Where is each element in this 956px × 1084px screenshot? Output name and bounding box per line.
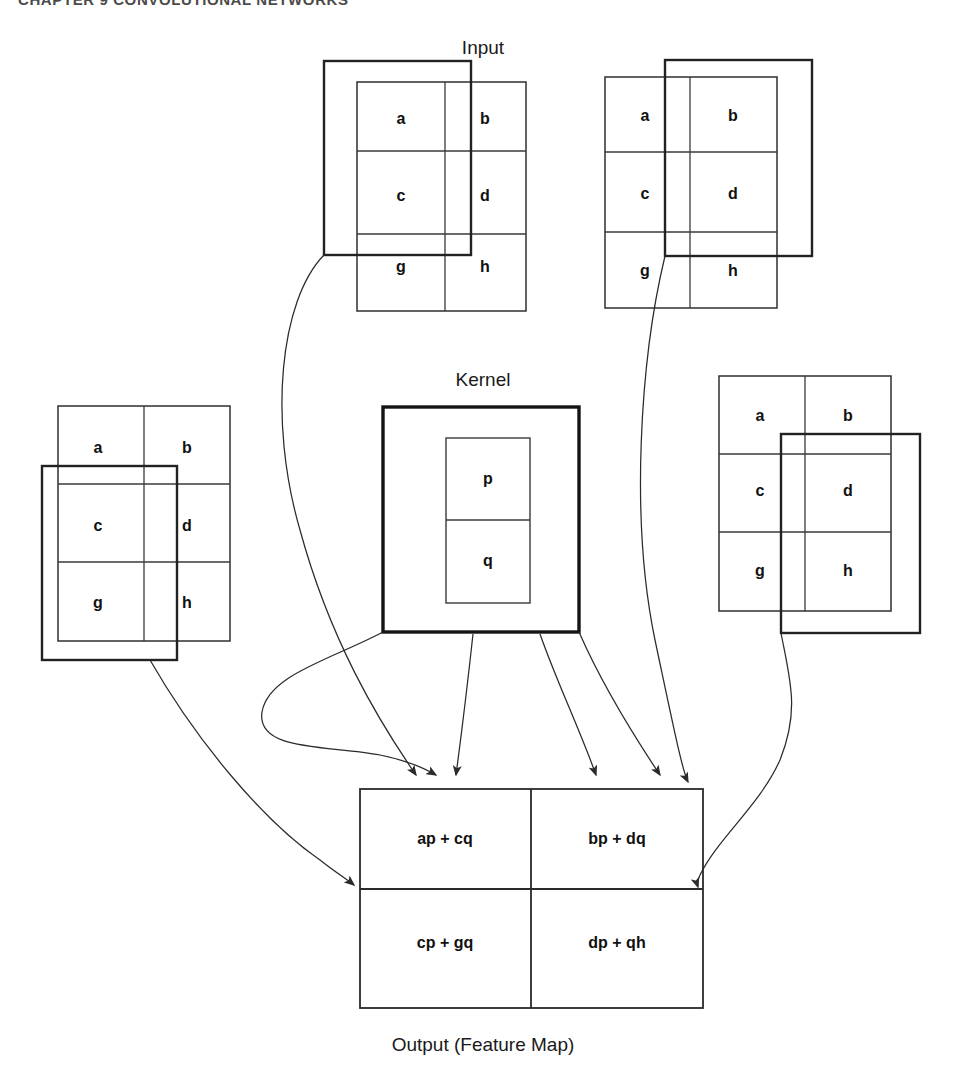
cell-b: b <box>728 107 738 124</box>
cell-b: b <box>182 439 192 456</box>
output-title: Output (Feature Map) <box>392 1034 575 1055</box>
cell-d: d <box>843 482 853 499</box>
kernel-window-highlight <box>665 60 812 256</box>
flow-kernel-down-r0c1 <box>540 634 596 775</box>
output-feature-map: ap + cq bp + dq cp + gq dp + qh <box>360 789 703 1008</box>
kernel-window-highlight <box>42 466 177 660</box>
cell-g: g <box>755 562 765 579</box>
output-cell-r0c0: ap + cq <box>417 830 473 847</box>
input-grid-top-right: a b c d g h <box>605 60 812 308</box>
cell-h: h <box>843 562 853 579</box>
kernel-window-highlight <box>324 61 471 255</box>
cell-c: c <box>756 482 765 499</box>
cell-d: d <box>728 185 738 202</box>
output-cell-r1c0: cp + gq <box>417 934 473 951</box>
kernel-cell-q: q <box>483 552 493 569</box>
output-cell-r1c1: dp + qh <box>588 934 645 951</box>
convolution-diagram: Input a b c d g h a b c d g h a b c d <box>0 0 956 1084</box>
flow-input3-to-output <box>150 660 354 885</box>
flow-kernel-to-output-r0c0 <box>262 632 436 775</box>
input-title: Input <box>462 37 505 58</box>
kernel-cell-p: p <box>483 470 493 487</box>
cell-a: a <box>94 439 103 456</box>
cell-c: c <box>641 185 650 202</box>
input-grid-bottom-right: a b c d g h <box>719 376 920 633</box>
cell-b: b <box>480 110 490 127</box>
kernel-title: Kernel <box>456 369 511 390</box>
grid-outline <box>357 82 526 311</box>
input-grid-top-left: a b c d g h <box>324 61 526 311</box>
kernel-window-highlight <box>781 434 920 633</box>
cell-h: h <box>480 258 490 275</box>
flow-input2-to-output <box>641 256 688 782</box>
cell-a: a <box>397 110 406 127</box>
flow-input1-to-output <box>282 255 416 775</box>
flow-kernel-down-r0c1-b <box>579 632 660 775</box>
output-cell-r0c1: bp + dq <box>588 830 645 847</box>
cell-a: a <box>641 107 650 124</box>
cell-h: h <box>182 594 192 611</box>
cell-d: d <box>480 187 490 204</box>
flow-kernel-down-r0c0 <box>456 634 473 775</box>
cell-c: c <box>397 187 406 204</box>
cell-b: b <box>843 407 853 424</box>
cell-c: c <box>94 517 103 534</box>
grid-outline <box>605 77 777 308</box>
cell-g: g <box>93 594 103 611</box>
input-grid-bottom-left: a b c d g h <box>42 406 230 660</box>
kernel-block: p q <box>383 407 579 632</box>
cell-h: h <box>728 262 738 279</box>
cell-d: d <box>182 517 192 534</box>
cell-g: g <box>396 258 406 275</box>
flow-input4-to-output <box>697 633 791 887</box>
cell-g: g <box>640 262 650 279</box>
cell-a: a <box>756 407 765 424</box>
